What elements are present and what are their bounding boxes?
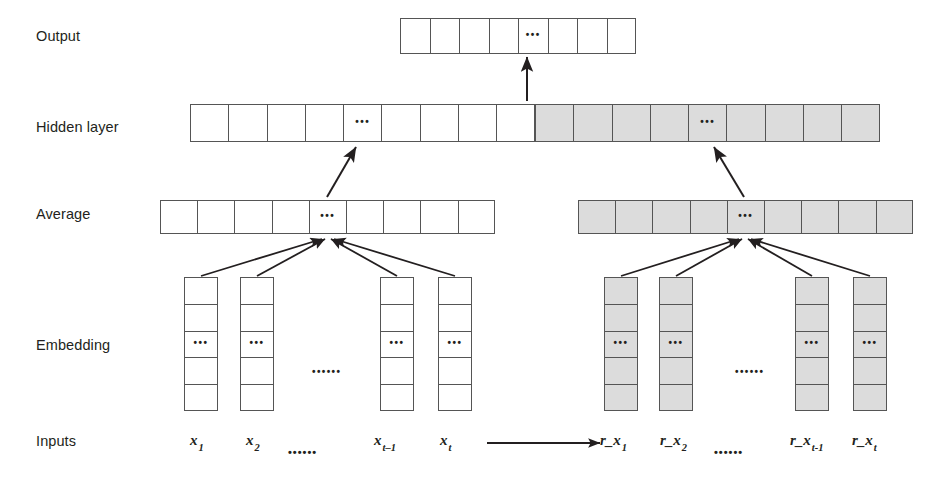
average-right-cell [578,200,615,234]
hidden-left-cell [267,104,305,142]
average-left-cell [383,200,420,234]
embedding-cell [380,277,414,304]
input-token-r_x1: r_x1 [600,432,626,451]
input-token-subscript: t–1 [383,442,396,453]
hidden-right-cell: ••• [688,104,726,142]
embedding-left-gap-ellipsis: •••••• [312,366,341,377]
hidden-right-cell [803,104,841,142]
average-left-ellipsis: ••• [320,211,335,221]
embedding-cell [438,277,472,304]
average-right-cell [838,200,875,234]
arrow-embed-x2-to-average [257,239,325,276]
arrow-embed-xt-to-average [334,239,455,276]
average-left-cell [420,200,457,234]
embedding-cell-ellipsis: ••• [613,338,628,348]
input-token-subscript: 2 [682,442,687,453]
row-label-hidden-layer: Hidden layer [36,119,119,135]
arrow-embed-x1-to-average [201,239,322,276]
embedding-cell [604,304,638,331]
output-cell [489,18,519,54]
input-token-x1: x1 [190,432,203,451]
hidden-left-cell [190,104,228,142]
embedding-cell-ellipsis: ••• [862,338,877,348]
hidden-left-cell: ••• [343,104,381,142]
hidden-left-cell [420,104,458,142]
embedding-cell [438,304,472,331]
row-label-average: Average [36,206,90,222]
row-label-output: Output [36,28,80,44]
embedding-cell [240,384,274,411]
hidden-left-cell [496,104,534,142]
average-left-cell: ••• [309,200,346,234]
embedding-right-gap-ellipsis: •••••• [735,366,764,377]
input-token-r_xt: r_xt [852,432,876,451]
input-token-subscript: 1 [199,442,204,453]
hidden-left-cell [458,104,496,142]
average-right-ellipsis: ••• [738,211,753,221]
embedding-cell [604,384,638,411]
average-layer-left: ••• [160,200,495,234]
network-architecture-diagram: Output Hidden layer Average Embedding In… [0,0,936,485]
embedding-cell [659,384,693,411]
input-token-base: r_x [660,432,681,448]
embedding-cell [659,357,693,384]
output-cell [430,18,460,54]
embedding-cell [795,357,829,384]
embedding-cell [604,357,638,384]
input-token-base: x [190,432,198,448]
embedding-column-emb-xt: ••• [438,277,472,411]
embedding-cell [184,277,218,304]
inputs-right-gap-ellipsis: •••••• [714,446,743,458]
embedding-cell [184,304,218,331]
embedding-cell: ••• [380,331,414,358]
average-left-cell [197,200,234,234]
embedding-cell [184,384,218,411]
embedding-cell [240,357,274,384]
arrow-average-right-to-hidden [714,147,744,197]
input-token-subscript: t [449,442,452,453]
output-ellipsis: ••• [526,30,541,40]
embedding-column-emb-rx2: ••• [659,277,693,411]
average-right-cell [615,200,652,234]
embedding-column-emb-x2: ••• [240,277,274,411]
embedding-cell [604,277,638,304]
output-cell [577,18,607,54]
arrow-embed-rx1-to-average [621,239,739,276]
hidden-right-cell [535,104,573,142]
embedding-cell [380,304,414,331]
embedding-cell [853,357,887,384]
hidden-left-cell [228,104,266,142]
embedding-cell [438,384,472,411]
embedding-cell [659,277,693,304]
average-right-cell [764,200,801,234]
embedding-cell-ellipsis: ••• [447,338,462,348]
embedding-cell [853,304,887,331]
average-layer-right: ••• [578,200,913,234]
arrow-embed-rxt-1-to-average [748,239,812,276]
embedding-cell-ellipsis: ••• [668,338,683,348]
input-token-base: r_x [600,432,621,448]
embedding-cell [795,384,829,411]
output-cell: ••• [518,18,548,54]
embedding-cell-ellipsis: ••• [804,338,819,348]
embedding-cell: ••• [184,331,218,358]
embedding-cell [240,277,274,304]
inputs-left-gap-ellipsis: •••••• [288,446,317,458]
embedding-cell: ••• [240,331,274,358]
input-token-base: x [246,432,254,448]
hidden-layer-right-half: ••• [535,104,880,142]
hidden-right-cell [650,104,688,142]
embedding-cell-ellipsis: ••• [249,338,264,348]
embedding-cell: ••• [438,331,472,358]
embedding-cell [795,277,829,304]
embedding-cell-ellipsis: ••• [193,338,208,348]
input-token-subscript: t [874,442,877,453]
arrow-average-left-to-hidden [327,147,356,197]
input-token-r_x2: r_x2 [660,432,686,451]
embedding-cell [240,304,274,331]
average-right-cell [652,200,689,234]
embedding-cell [853,277,887,304]
output-cell [607,18,637,54]
hidden-layer-left-half: ••• [190,104,535,142]
input-token-x2: x2 [246,432,259,451]
